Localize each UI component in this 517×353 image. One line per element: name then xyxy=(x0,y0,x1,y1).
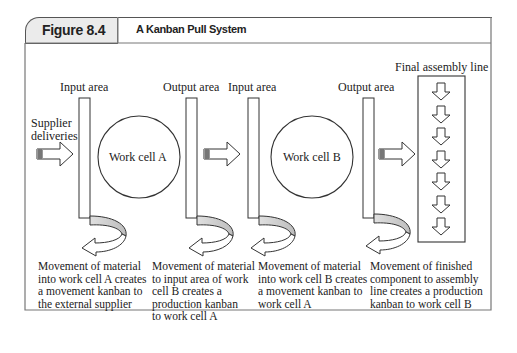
output-area-a-bar xyxy=(186,98,197,218)
work-cell-a-label: Work cell A xyxy=(109,151,167,164)
kanban-curved-arrows xyxy=(82,214,410,256)
curved-arrow-1 xyxy=(82,216,126,256)
curved-arrow-3 xyxy=(251,216,295,256)
caption-1: Movement of material into work cell A cr… xyxy=(38,260,147,310)
transfer-arrow-a-to-b xyxy=(204,142,240,166)
supplier-delivery-arrow xyxy=(37,142,73,166)
supplier-label-line2: deliveries xyxy=(31,130,78,143)
curved-arrow-4 xyxy=(366,214,410,254)
caption-3: Movement of material into work cell B cr… xyxy=(258,260,367,310)
output-area-b-bar xyxy=(363,98,374,218)
final-assembly-line-label: Final assembly line xyxy=(395,61,488,74)
input-area-b-bar xyxy=(248,98,259,218)
transfer-arrow-b-to-assembly xyxy=(379,142,415,166)
output-area-a-label: Output area xyxy=(163,81,219,94)
input-area-a-label: Input area xyxy=(60,81,108,94)
curved-arrow-2 xyxy=(189,216,233,256)
input-area-b-label: Input area xyxy=(228,81,276,94)
input-area-a-bar xyxy=(79,98,90,218)
caption-2: Movement of material to input area of wo… xyxy=(152,260,255,323)
work-cell-b-label: Work cell B xyxy=(283,151,341,164)
caption-4: Movement of finished component to assemb… xyxy=(370,260,483,310)
output-area-b-label: Output area xyxy=(338,81,394,94)
